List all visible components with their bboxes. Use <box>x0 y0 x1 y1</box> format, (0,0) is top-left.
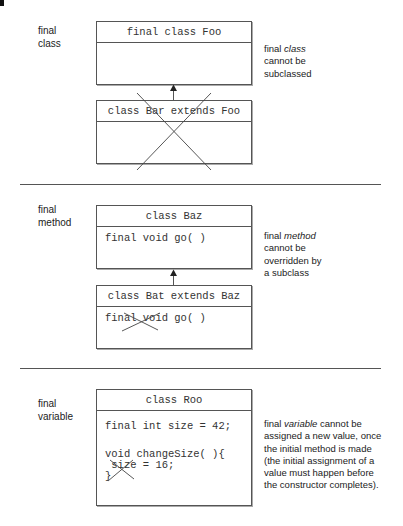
corner-mark <box>0 0 4 6</box>
note-line: assigned a new value, once <box>264 430 381 442</box>
class-roo-method-sig: void changeSize( ){ <box>97 432 251 460</box>
label-line: final <box>38 398 73 411</box>
label-line: final <box>38 204 71 217</box>
class-baz-header: class Baz <box>97 206 251 227</box>
note-line: cannot be <box>264 55 312 67</box>
class-roo-header: class Roo <box>97 390 251 411</box>
class-foo-header: final class Foo <box>97 22 251 43</box>
label-line: final <box>38 25 61 38</box>
note-line: cannot be <box>264 242 322 254</box>
note-line: the constructor completes). <box>264 479 381 491</box>
section-divider <box>20 184 381 185</box>
note-line: final class <box>264 43 312 55</box>
class-bat-method: final void go( ) <box>97 307 251 324</box>
class-foo-box: final class Foo <box>96 21 252 85</box>
class-baz-method: final void go( ) <box>97 227 251 244</box>
note-final-method: final method cannot be overridden by a s… <box>264 230 322 279</box>
label-final-variable: final variable <box>38 398 73 423</box>
inheritance-arrow-icon <box>170 85 177 101</box>
label-line: method <box>38 217 71 230</box>
class-bar-box: class Bar extends Foo <box>96 100 252 164</box>
class-bar-header: class Bar extends Foo <box>97 101 251 122</box>
note-line: subclassed <box>264 68 312 80</box>
class-bat-header: class Bat extends Baz <box>97 286 251 307</box>
label-line: variable <box>38 411 73 424</box>
class-bat-box: class Bat extends Baz final void go( ) <box>96 285 252 349</box>
class-roo-method-end: } <box>97 471 251 482</box>
class-baz-box: class Baz final void go( ) <box>96 205 252 269</box>
note-final-class: final class cannot be subclassed <box>264 43 312 80</box>
note-line: the initial method is made <box>264 443 381 455</box>
note-line: overridden by <box>264 255 322 267</box>
label-final-method: final method <box>38 204 71 229</box>
class-roo-field: final int size = 42; <box>97 411 251 432</box>
label-final-class: final class <box>38 25 61 50</box>
inheritance-arrow-icon <box>170 270 177 286</box>
label-line: class <box>38 38 61 51</box>
note-line: a subclass <box>264 267 322 279</box>
class-roo-box: class Roo final int size = 42; void chan… <box>96 389 252 506</box>
note-line: value must happen before <box>264 467 381 479</box>
class-roo-assignment: size = 16; <box>97 460 251 471</box>
note-line: (the initial assignment of a <box>264 455 381 467</box>
section-divider <box>20 368 381 369</box>
note-line: final variable cannot be <box>264 418 381 430</box>
note-line: final method <box>264 230 322 242</box>
note-final-variable: final variable cannot be assigned a new … <box>264 418 381 492</box>
